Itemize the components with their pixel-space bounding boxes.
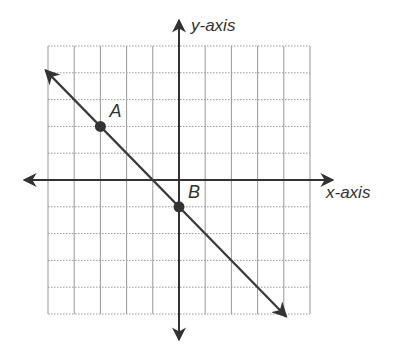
point-a — [95, 121, 106, 132]
point-label-b: B — [188, 182, 200, 202]
y-axis-label: y-axis — [190, 16, 236, 35]
point-b — [174, 201, 185, 212]
points-group: AB — [95, 101, 200, 212]
line-ab — [45, 70, 286, 317]
x-axis-label: x-axis — [325, 183, 371, 202]
point-label-a: A — [108, 101, 121, 121]
coordinate-plane-diagram: AB y-axis x-axis — [0, 0, 403, 360]
